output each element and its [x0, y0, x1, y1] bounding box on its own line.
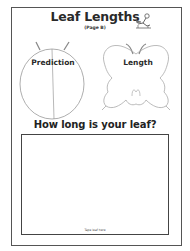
tape-leaf-label: Tape leaf here	[22, 228, 168, 232]
prediction-label: Prediction	[28, 58, 78, 67]
length-label: Length	[113, 58, 163, 67]
child-reading-icon	[133, 12, 153, 32]
ladybug-outline	[18, 40, 90, 120]
worksheet-title: Leaf Lengths	[0, 10, 190, 24]
worksheet-subtitle: (Page B)	[0, 25, 190, 31]
tape-leaf-box: Tape leaf here	[21, 134, 169, 235]
question-heading: How long is your leaf?	[0, 119, 190, 131]
butterfly-outline	[98, 40, 178, 122]
